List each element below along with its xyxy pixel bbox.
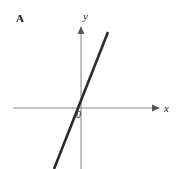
x-axis-arrowhead-icon <box>152 105 160 112</box>
figure-panel: A y x 0 <box>0 0 179 169</box>
panel-label: A <box>16 13 24 24</box>
origin-label: 0 <box>76 110 81 120</box>
y-axis-label: y <box>83 11 88 22</box>
x-axis-label: x <box>164 103 169 114</box>
coordinate-plot <box>0 0 179 169</box>
y-axis-arrowhead-icon <box>78 26 85 34</box>
x-axis <box>13 105 160 112</box>
